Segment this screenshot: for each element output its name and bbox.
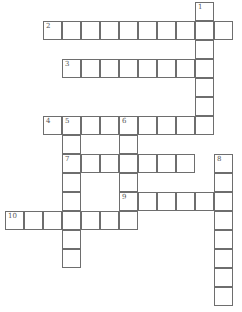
crossword-cell[interactable] <box>176 21 195 40</box>
crossword-cell[interactable] <box>119 59 138 78</box>
crossword-cell[interactable] <box>157 192 176 211</box>
crossword-cell[interactable] <box>81 116 100 135</box>
crossword-cell[interactable]: 9 <box>119 192 138 211</box>
crossword-cell[interactable] <box>81 59 100 78</box>
crossword-cell[interactable]: 3 <box>62 59 81 78</box>
crossword-cell[interactable] <box>195 192 214 211</box>
crossword-cell[interactable] <box>100 211 119 230</box>
crossword-cell[interactable] <box>62 249 81 268</box>
crossword-cell[interactable] <box>100 116 119 135</box>
crossword-cell[interactable] <box>214 21 233 40</box>
crossword-cell[interactable] <box>214 192 233 211</box>
crossword-cell[interactable] <box>62 211 81 230</box>
crossword-cell[interactable] <box>81 21 100 40</box>
crossword-cell[interactable] <box>157 116 176 135</box>
crossword-cell[interactable] <box>119 154 138 173</box>
crossword-cell[interactable]: 2 <box>43 21 62 40</box>
crossword-cell[interactable] <box>176 116 195 135</box>
crossword-cell[interactable] <box>195 97 214 116</box>
clue-number: 9 <box>122 193 126 202</box>
crossword-cell[interactable] <box>176 192 195 211</box>
crossword-cell[interactable] <box>62 192 81 211</box>
crossword-cell[interactable]: 5 <box>62 116 81 135</box>
clue-number: 6 <box>122 117 126 126</box>
crossword-cell[interactable]: 1 <box>195 2 214 21</box>
crossword-cell[interactable] <box>119 211 138 230</box>
crossword-cell[interactable] <box>138 192 157 211</box>
crossword-cell[interactable] <box>138 116 157 135</box>
crossword-cell[interactable] <box>214 211 233 230</box>
crossword-cell[interactable] <box>157 59 176 78</box>
crossword-cell[interactable] <box>214 287 233 306</box>
crossword-cell[interactable] <box>62 173 81 192</box>
crossword-cell[interactable]: 4 <box>43 116 62 135</box>
crossword-cell[interactable]: 8 <box>214 154 233 173</box>
crossword-cell[interactable]: 6 <box>119 116 138 135</box>
crossword-cell[interactable] <box>195 21 214 40</box>
crossword-cell[interactable] <box>138 59 157 78</box>
crossword-cell[interactable] <box>81 211 100 230</box>
crossword-cell[interactable] <box>138 21 157 40</box>
crossword-cell[interactable] <box>119 135 138 154</box>
crossword-cell[interactable] <box>62 230 81 249</box>
clue-number: 3 <box>65 60 69 69</box>
crossword-cell[interactable] <box>81 154 100 173</box>
crossword-cell[interactable] <box>157 21 176 40</box>
crossword-cell[interactable] <box>176 154 195 173</box>
crossword-cell[interactable] <box>62 135 81 154</box>
crossword-cell[interactable] <box>195 59 214 78</box>
clue-number: 5 <box>65 117 69 126</box>
crossword-cell[interactable] <box>176 59 195 78</box>
clue-number: 7 <box>65 155 69 164</box>
crossword-cell[interactable] <box>214 173 233 192</box>
clue-number: 2 <box>46 22 50 31</box>
crossword-cell[interactable] <box>214 268 233 287</box>
clue-number: 1 <box>198 3 202 12</box>
crossword-cell[interactable] <box>195 116 214 135</box>
crossword-cell[interactable] <box>100 59 119 78</box>
crossword-cell[interactable] <box>62 21 81 40</box>
crossword-cell[interactable] <box>119 21 138 40</box>
crossword-cell[interactable]: 10 <box>5 211 24 230</box>
crossword-cell[interactable] <box>138 154 157 173</box>
clue-number: 4 <box>46 117 50 126</box>
crossword-cell[interactable] <box>195 40 214 59</box>
crossword-cell[interactable]: 7 <box>62 154 81 173</box>
clue-number: 10 <box>8 212 17 221</box>
crossword-cell[interactable] <box>100 154 119 173</box>
crossword-cell[interactable] <box>43 211 62 230</box>
crossword-cell[interactable] <box>24 211 43 230</box>
crossword-cell[interactable] <box>195 78 214 97</box>
crossword-cell[interactable] <box>214 230 233 249</box>
crossword-cell[interactable] <box>100 21 119 40</box>
crossword-cell[interactable] <box>214 249 233 268</box>
clue-number: 8 <box>217 155 221 164</box>
crossword-cell[interactable] <box>119 173 138 192</box>
crossword-cell[interactable] <box>157 154 176 173</box>
